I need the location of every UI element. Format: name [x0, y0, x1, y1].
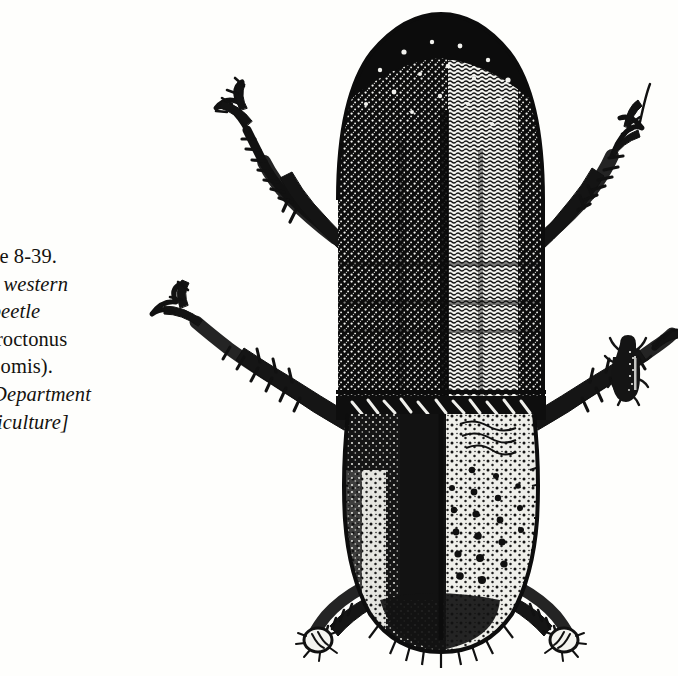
leg-front-left	[216, 78, 348, 250]
leg-hind-right	[510, 588, 586, 661]
caption-line-1: igure 8-39.	[0, 243, 196, 271]
leg-hind-left	[296, 588, 372, 661]
beetle-main-figure	[152, 10, 678, 670]
caption-line-4: endroctonus	[0, 326, 196, 354]
caption-line-7: Agriculture]	[0, 409, 196, 437]
caption-line-5: evicomis).	[0, 353, 196, 381]
beetle-actual-size-figure	[605, 335, 651, 405]
leg-front-right	[536, 84, 650, 250]
beetle-legs	[152, 78, 678, 661]
beetle-thorax-joint	[336, 392, 546, 420]
caption-line-6: .S. Department	[0, 381, 196, 409]
actual-size-legs	[605, 338, 651, 405]
figure-page: igure 8-39. dult western ne beetle endro…	[0, 0, 678, 676]
beetle-pronotum	[330, 10, 552, 410]
beetle-elytra	[335, 410, 546, 670]
abdominal-setae	[369, 626, 513, 668]
actual-size-body	[612, 335, 640, 402]
figure-caption: igure 8-39. dult western ne beetle endro…	[0, 243, 196, 436]
leg-middle-right	[532, 330, 678, 430]
caption-line-3: ne beetle	[0, 298, 196, 326]
caption-line-2: dult western	[0, 271, 196, 299]
